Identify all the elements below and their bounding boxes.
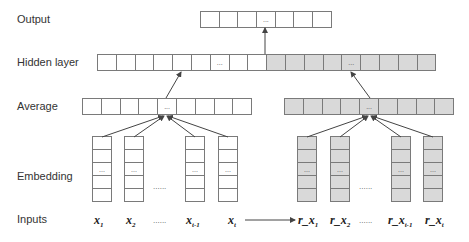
connection-arrows <box>0 0 469 242</box>
